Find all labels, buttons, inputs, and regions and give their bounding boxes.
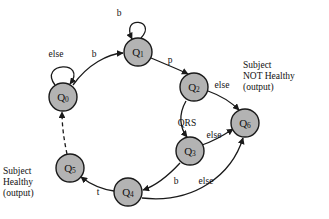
transition-q2-q3-qrs[interactable]: QRS	[178, 101, 196, 137]
edge-path-q0-self	[51, 67, 74, 85]
transition-q3-q6-else[interactable]: else	[202, 129, 233, 145]
transition-q3-q4-b[interactable]: b	[143, 163, 180, 190]
transition-q1-self-b[interactable]: b	[117, 8, 146, 39]
edge-label-q3-q6: else	[207, 130, 222, 140]
transition-q0-self-else[interactable]: else	[49, 49, 74, 85]
state-node-q0[interactable]: Q0	[49, 83, 77, 111]
transition-q0-q1-b[interactable]: b	[73, 49, 123, 85]
edge-label-q2-q6: else	[215, 80, 230, 90]
edge-path-q0-q1	[73, 53, 123, 85]
edge-label-q0-q1: b	[92, 49, 97, 59]
edge-label-q1-q2: p	[168, 55, 173, 65]
state-node-q3[interactable]: Q3	[176, 137, 204, 165]
edge-label-q2-q3: QRS	[178, 118, 196, 128]
edge-label-q0-self: else	[49, 49, 64, 59]
fsm-canvas: else b b p else QRS else	[0, 0, 329, 219]
transition-q5-q0-dashed[interactable]	[62, 112, 67, 154]
state-node-q1[interactable]: Q1	[124, 38, 152, 66]
edge-label-q4-q6: else	[199, 176, 214, 186]
edge-path-q5-q0	[62, 112, 67, 154]
edge-path-q1-self	[130, 22, 146, 39]
edge-label-q1-self: b	[117, 8, 122, 18]
state-node-q4[interactable]: Q4	[114, 178, 142, 206]
state-machine-diagram: else b b p else QRS else	[0, 0, 329, 219]
transition-q2-q6-else[interactable]: else	[208, 80, 239, 110]
output-annotation-not-healthy: Subject NOT Healthy (output)	[243, 60, 295, 94]
edge-label-q3-q4: b	[174, 176, 179, 186]
state-node-q2[interactable]: Q2	[180, 73, 208, 101]
state-node-q5[interactable]: Q5	[56, 154, 84, 182]
edge-label-q4-q5: t	[97, 187, 100, 197]
output-annotation-healthy: Subject Healthy (output)	[3, 166, 34, 200]
state-node-q6[interactable]: Q6	[231, 109, 259, 137]
edge-path-q2-q6	[208, 91, 239, 110]
transition-q1-q2-p[interactable]: p	[151, 55, 188, 74]
transition-q4-q5-t[interactable]: t	[81, 177, 114, 197]
